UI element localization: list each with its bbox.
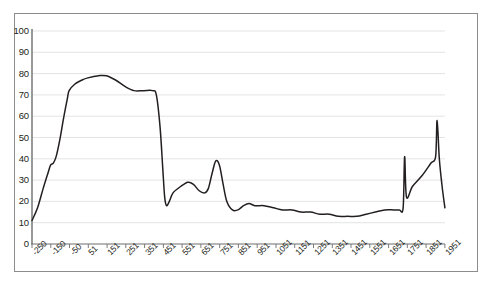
y-tick-label: 0 <box>3 239 29 249</box>
y-tick-label: 40 <box>3 154 29 164</box>
y-tick-label: 100 <box>3 26 29 36</box>
y-tick-label: 60 <box>3 111 29 121</box>
y-tick-label: 80 <box>3 69 29 79</box>
y-tick-label: 90 <box>3 47 29 57</box>
y-tick-label: 30 <box>3 175 29 185</box>
y-tick-label: 20 <box>3 196 29 206</box>
gridlines <box>32 31 445 223</box>
data-series-line <box>32 75 445 220</box>
y-tick-label: 50 <box>3 133 29 143</box>
y-tick-label: 10 <box>3 218 29 228</box>
chart-figure: 100 90 80 70 60 50 40 30 20 10 0 -250-15… <box>0 0 493 287</box>
line-chart-plot <box>15 14 477 271</box>
chart-frame: 100 90 80 70 60 50 40 30 20 10 0 -250-15… <box>14 13 478 272</box>
y-tick-label: 70 <box>3 90 29 100</box>
